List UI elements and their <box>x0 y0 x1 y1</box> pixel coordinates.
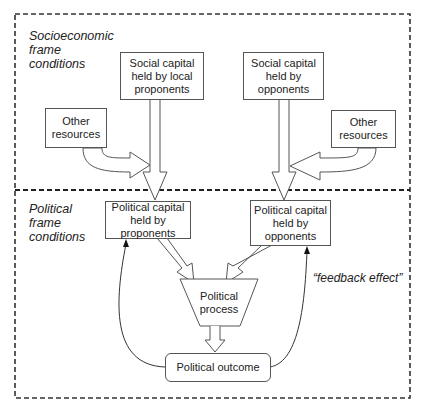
node-text-line: held by local <box>130 70 195 83</box>
node-text-line: held by <box>254 217 327 230</box>
node-text-line: Political capital <box>112 201 185 214</box>
node-text-line: proponents <box>130 83 195 96</box>
feedback-curve-right <box>270 251 307 367</box>
node-political-process: Political process <box>190 290 248 316</box>
feedback-effect-label: “feedback effect” <box>313 271 402 285</box>
feedback-arrowhead-right <box>304 246 310 254</box>
section-label-line: Socioeconomic <box>29 29 114 43</box>
feedback-curve-left <box>119 244 165 367</box>
node-text-line: proponents <box>112 227 185 240</box>
block-arrow-process-to-outcome <box>205 326 225 352</box>
section-label-socioeconomic: Socioeconomic frame conditions <box>29 29 114 71</box>
node-political-outcome: Political outcome <box>165 353 271 382</box>
node-political-capital-proponents: Political capital held by proponents <box>105 201 191 239</box>
node-text-line: resources <box>339 129 387 142</box>
block-arrow-left-vertical <box>143 100 167 200</box>
node-text-line: Other <box>339 116 387 129</box>
node-text-line: Social capital <box>251 57 316 70</box>
feedback-arrowhead-left <box>123 239 129 247</box>
curved-block-arrow-right <box>290 148 376 180</box>
section-label-political: Political frame conditions <box>29 202 85 244</box>
node-other-resources-right: Other resources <box>331 110 396 148</box>
node-text-line: opponents <box>251 83 316 96</box>
section-label-line: conditions <box>29 230 85 244</box>
section-label-line: conditions <box>29 57 114 71</box>
section-label-line: frame <box>29 216 85 230</box>
node-text-line: process <box>190 303 248 316</box>
node-text-line: Political capital <box>254 204 327 217</box>
node-social-capital-opponents: Social capital held by opponents <box>243 52 324 100</box>
node-text-line: Other <box>52 115 100 128</box>
node-text-line: opponents <box>254 230 327 243</box>
node-text-line: held by <box>251 70 316 83</box>
block-arrow-opponents-to-process <box>226 245 272 283</box>
node-text-line: Social capital <box>130 57 195 70</box>
node-other-resources-left: Other resources <box>45 108 107 148</box>
curved-block-arrow-left <box>83 148 150 178</box>
node-text-line: held by <box>112 214 185 227</box>
block-arrow-right-vertical <box>272 100 296 200</box>
section-label-line: frame <box>29 43 114 57</box>
node-text-line: resources <box>52 128 100 141</box>
node-text-line: Political <box>190 290 248 303</box>
node-social-capital-proponents: Social capital held by local proponents <box>120 52 204 100</box>
block-arrow-proponents-to-process <box>157 238 194 283</box>
section-label-line: Political <box>29 202 85 216</box>
node-text-line: Political outcome <box>176 361 259 374</box>
node-political-capital-opponents: Political capital held by opponents <box>250 200 331 246</box>
